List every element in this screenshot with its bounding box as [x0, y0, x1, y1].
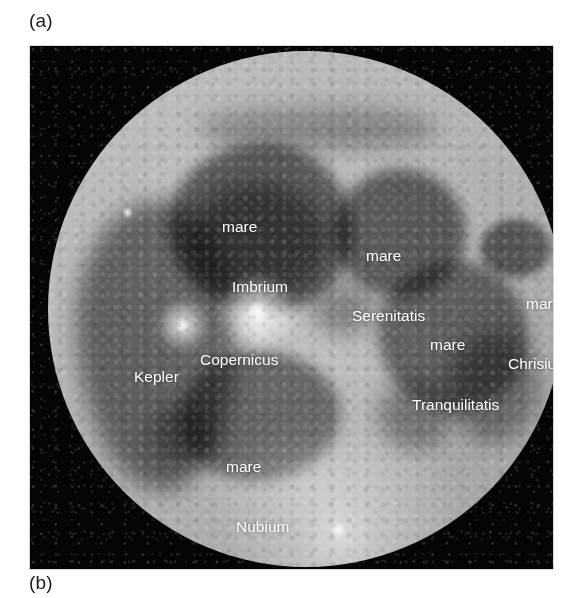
label-mare-chrisium-line1: mare: [508, 294, 553, 314]
label-mare-nubium-line1: mare: [226, 457, 289, 477]
label-mare-nubium-line2: Nubium: [226, 517, 289, 537]
label-kepler-line1: Kepler: [134, 367, 179, 387]
label-mare-tranquilitatis: mare Tranquilitatis: [412, 295, 499, 455]
panel-b-caption: (b): [29, 572, 53, 594]
panel-a-caption: (a): [29, 10, 53, 32]
moon-photograph: mare Imbrium mare Serenitatis mare Chris…: [30, 46, 553, 569]
label-mare-imbrium-line1: mare: [222, 217, 288, 237]
label-mare-imbrium-line2: Imbrium: [222, 277, 288, 297]
label-mare-tranquilitatis-line1: mare: [412, 335, 499, 355]
label-copernicus-line1: Copernicus: [200, 350, 278, 370]
label-mare-chrisium: mare Chrisium: [508, 254, 553, 414]
label-mare-serenitatis-line1: mare: [352, 246, 425, 266]
label-kepler: Kepler: [134, 327, 179, 427]
label-copernicus: Copernicus: [200, 310, 278, 410]
label-mare-chrisium-line2: Chrisium: [508, 354, 553, 374]
label-tycho: Tycho: [262, 538, 303, 569]
label-mare-tranquilitatis-line2: Tranquilitatis: [412, 395, 499, 415]
